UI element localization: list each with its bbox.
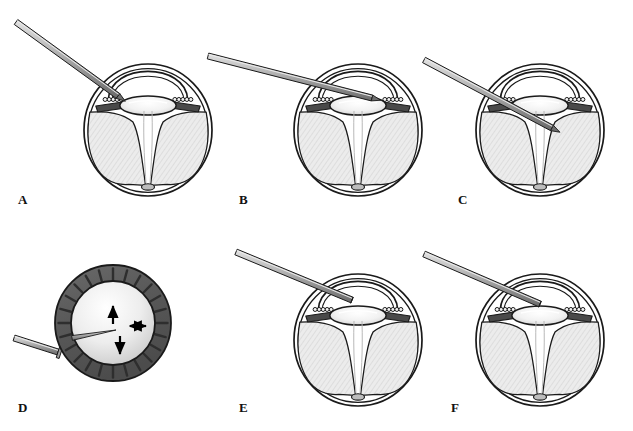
ciliary-process	[577, 307, 581, 311]
surgical-figure: ABCDEF	[0, 0, 633, 431]
ciliary-process	[107, 97, 111, 101]
ciliary-body-right	[383, 97, 403, 101]
ciliary-process	[573, 97, 577, 101]
ciliary-process	[391, 307, 395, 311]
ciliary-body-left	[313, 307, 333, 311]
ciliary-body-left	[495, 307, 515, 311]
lens	[512, 306, 568, 325]
ciliary-process	[325, 97, 329, 101]
ciliary-process	[181, 97, 185, 101]
panel-label-a: A	[18, 192, 28, 207]
ciliary-process	[387, 307, 391, 311]
optic-disc	[534, 184, 547, 190]
ciliary-process	[325, 307, 329, 311]
ciliary-process	[317, 97, 321, 101]
ciliary-process	[103, 97, 107, 101]
ciliary-process	[111, 97, 115, 101]
lens	[330, 306, 386, 325]
ciliary-process	[189, 97, 193, 101]
ciliary-process	[577, 97, 581, 101]
ciliary-process	[581, 307, 585, 311]
ciliary-body-left	[313, 97, 333, 101]
ciliary-process	[581, 97, 585, 101]
optic-disc	[352, 184, 365, 190]
ciliary-process	[313, 307, 317, 311]
optic-disc	[534, 394, 547, 400]
panel-label-f: F	[451, 400, 459, 415]
ciliary-process	[321, 97, 325, 101]
ciliary-process	[507, 307, 511, 311]
ciliary-process	[387, 97, 391, 101]
ciliary-process	[499, 307, 503, 311]
ciliary-process	[313, 97, 317, 101]
ciliary-process	[569, 307, 573, 311]
ciliary-process	[399, 97, 403, 101]
ciliary-process	[573, 307, 577, 311]
panel-label-e: E	[239, 400, 248, 415]
panel-label-b: B	[239, 192, 248, 207]
ciliary-process	[321, 307, 325, 311]
ciliary-process	[495, 307, 499, 311]
lens	[120, 96, 176, 115]
ciliary-body-right	[565, 307, 585, 311]
ciliary-process	[391, 97, 395, 101]
optic-disc	[352, 394, 365, 400]
figure-canvas: ABCDEF	[0, 0, 633, 431]
ciliary-body-right	[565, 97, 585, 101]
ciliary-process	[395, 307, 399, 311]
ciliary-process	[177, 97, 181, 101]
panel-label-d: D	[18, 400, 27, 415]
ciliary-process	[395, 97, 399, 101]
panel-label-c: C	[458, 192, 467, 207]
ciliary-process	[317, 307, 321, 311]
optic-disc	[142, 184, 155, 190]
ciliary-process	[503, 307, 507, 311]
ciliary-process	[569, 97, 573, 101]
ciliary-body-right	[173, 97, 193, 101]
ciliary-process	[185, 97, 189, 101]
ciliary-body-right	[383, 307, 403, 311]
ciliary-process	[399, 307, 403, 311]
